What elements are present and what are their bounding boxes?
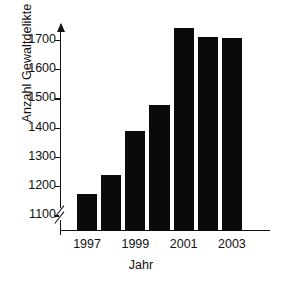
x-axis-tick-label: 2003 xyxy=(218,237,246,252)
bar xyxy=(125,131,145,231)
x-axis-title: Jahr xyxy=(0,258,282,272)
bar xyxy=(222,38,242,231)
x-axis-tick-label: 1999 xyxy=(121,237,149,252)
y-axis-tick-label: 1600 xyxy=(28,61,56,76)
x-axis-tick-label: 1997 xyxy=(73,237,101,252)
y-axis-tick-label: 1300 xyxy=(28,149,56,164)
x-axis-tick-label: 2001 xyxy=(170,237,198,252)
y-axis-tick-label: 1400 xyxy=(28,120,56,135)
bar xyxy=(149,105,169,231)
axis-break-icon xyxy=(51,204,69,224)
y-axis-tick-label: 1500 xyxy=(28,90,56,105)
y-axis-arrow-icon xyxy=(57,23,65,32)
y-axis-tick-label: 1200 xyxy=(28,178,56,193)
bar xyxy=(77,194,97,231)
bar xyxy=(174,28,194,231)
bar xyxy=(101,175,121,231)
x-axis-origin-tick xyxy=(60,231,61,235)
bar xyxy=(198,37,218,231)
bar-chart: Anzahl Gewaltdelikte 1100120013001400150… xyxy=(0,0,282,285)
plot-area: 1100120013001400150016001700 19971999200… xyxy=(60,18,270,231)
y-axis-tick-label: 1700 xyxy=(28,32,56,47)
